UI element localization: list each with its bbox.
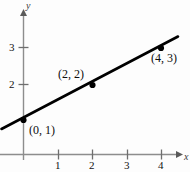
y-axis-label: y (26, 1, 30, 11)
data-point-0 (20, 117, 26, 123)
x-tick-label-3: 3 (124, 160, 130, 171)
x-axis-label: x (184, 152, 188, 162)
x-tick-label-4: 4 (158, 160, 164, 171)
point-label-0-1: (0, 1) (29, 124, 55, 136)
graph-figure: y x 1 2 3 4 3 2 (0, 1) (2, 2) (4, 3) (0, 0, 190, 172)
data-point-1 (89, 82, 95, 88)
x-tick-label-2: 2 (89, 160, 95, 171)
x-tick-label-1: 1 (55, 160, 61, 171)
point-label-2-2: (2, 2) (58, 68, 84, 80)
y-tick-label-3: 3 (9, 42, 15, 53)
point-label-4-3: (4, 3) (151, 52, 177, 64)
coordinate-plane (0, 0, 190, 172)
x-axis-arrowhead (176, 151, 183, 158)
y-tick-label-2: 2 (9, 79, 15, 90)
